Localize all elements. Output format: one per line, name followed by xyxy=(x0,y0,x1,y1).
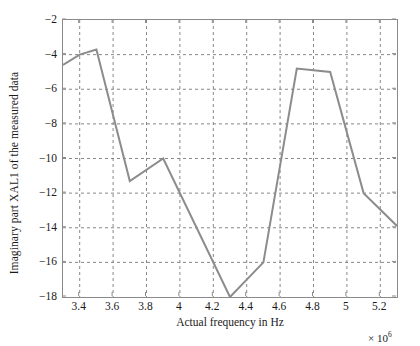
x-tick-label: 4.6 xyxy=(259,300,299,312)
chart-canvas xyxy=(63,20,397,297)
x-multiplier-base: × 10 xyxy=(368,332,388,344)
x-axis-multiplier: × 106 xyxy=(368,330,392,344)
x-tick-label: 5.2 xyxy=(359,300,399,312)
x-multiplier-exponent: 6 xyxy=(388,330,392,339)
x-tick-label: 3.8 xyxy=(126,300,166,312)
x-tick-label: 4 xyxy=(159,300,199,312)
gridlines xyxy=(63,20,397,297)
x-tick-label: 4.8 xyxy=(293,300,333,312)
plot-frame xyxy=(62,19,398,298)
chart-figure: Imaginary part XAL1 of the measured data… xyxy=(0,0,420,346)
y-axis-label: Imaginary part XAL1 of the measured data xyxy=(0,0,28,346)
x-axis-label: Actual frequency in Hz xyxy=(62,316,398,328)
x-tick-label: 5 xyxy=(326,300,366,312)
x-tick-label: 3.4 xyxy=(59,300,99,312)
x-tick-label: 4.4 xyxy=(226,300,266,312)
x-tick-label: 4.2 xyxy=(192,300,232,312)
x-tick-label: 3.6 xyxy=(92,300,132,312)
plot-area xyxy=(62,19,398,298)
